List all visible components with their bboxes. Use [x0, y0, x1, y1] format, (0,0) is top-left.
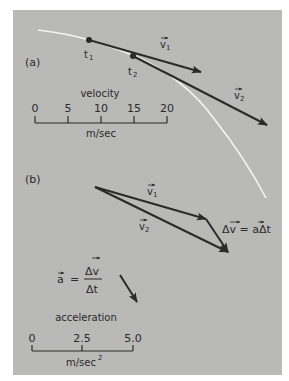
velocity-vector-v2 — [133, 56, 267, 125]
point-t1 — [86, 37, 92, 43]
svg-text:=: = — [70, 273, 79, 286]
svg-text:2.5: 2.5 — [73, 332, 91, 345]
svg-text:2: 2 — [98, 354, 102, 362]
part-a: (a) t 1 t 2 v 1 v 2 v — [25, 30, 267, 198]
point-t1-label: t 1 — [84, 49, 93, 62]
v2-label-b: v 2 — [139, 220, 149, 234]
acceleration-scale: acceleration 0 2.5 5.0 m/sec 2 — [29, 312, 142, 368]
part-b-label: (b) — [25, 173, 41, 186]
velocity-scale-unit: m/sec — [86, 128, 116, 139]
acceleration-vector — [120, 275, 137, 302]
svg-text:1: 1 — [166, 44, 170, 52]
part-a-label: (a) — [25, 56, 40, 69]
trajectory-curve — [38, 30, 266, 198]
svg-text:10: 10 — [94, 102, 108, 115]
svg-text:20: 20 — [160, 102, 174, 115]
acceleration-scale-unit: m/sec — [66, 357, 96, 368]
velocity-scale: velocity 0 5 10 15 20 m/sec — [32, 88, 175, 139]
svg-text:5: 5 — [65, 102, 72, 115]
svg-text:2: 2 — [133, 71, 137, 79]
svg-text:5.0: 5.0 — [124, 332, 142, 345]
delta-v-equation: Δv = aΔt — [222, 222, 272, 236]
acceleration-scale-title: acceleration — [55, 312, 117, 323]
svg-text:t: t — [128, 66, 132, 77]
svg-text:t: t — [84, 49, 88, 60]
svg-text:Δv = aΔt: Δv = aΔt — [222, 223, 272, 236]
v2-label-a: v 2 — [234, 89, 244, 103]
velocity-scale-title: velocity — [80, 88, 119, 99]
point-t2-label: t 2 — [128, 66, 137, 79]
svg-text:Δt: Δt — [86, 283, 99, 296]
svg-text:a: a — [57, 273, 64, 286]
svg-text:0: 0 — [32, 102, 39, 115]
svg-text:2: 2 — [240, 95, 244, 103]
svg-text:15: 15 — [127, 102, 141, 115]
velocity-vector-v1 — [89, 40, 201, 72]
velocity-acceleration-diagram: (a) t 1 t 2 v 1 v 2 v — [0, 0, 289, 381]
acceleration-equation: a = Δv Δt — [57, 258, 102, 296]
part-b: (b) v 1 v 2 Δv = aΔt a = Δv — [25, 173, 272, 368]
v1-label-a: v 1 — [160, 38, 170, 52]
svg-text:Δv: Δv — [85, 265, 100, 278]
point-t2 — [130, 53, 136, 59]
svg-text:1: 1 — [89, 54, 93, 62]
svg-text:2: 2 — [145, 226, 149, 234]
svg-text:0: 0 — [29, 332, 36, 345]
svg-text:1: 1 — [153, 191, 157, 199]
v1-label-b: v 1 — [147, 185, 157, 199]
vector-v2-b — [95, 187, 228, 252]
